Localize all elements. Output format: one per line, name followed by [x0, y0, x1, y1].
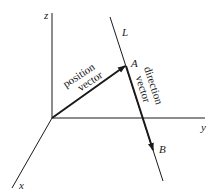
- x-axis-label: x: [18, 179, 24, 191]
- position-vector-label: position vector: [61, 59, 105, 99]
- y-axis-label: y: [200, 121, 206, 133]
- x-axis: [12, 118, 52, 188]
- line-l-label: L: [121, 26, 128, 38]
- line-vector-diagram: z y x L A B position vector direction ve…: [0, 0, 217, 196]
- z-axis-label: z: [43, 9, 49, 21]
- point-b-label: B: [159, 143, 166, 155]
- direction-vector-label: direction vector: [132, 65, 166, 110]
- point-a-label: A: [130, 57, 138, 69]
